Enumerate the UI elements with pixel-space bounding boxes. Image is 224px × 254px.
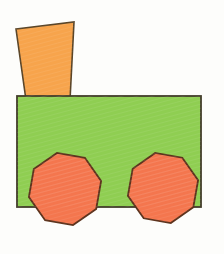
- train-wagon-illustration: [0, 0, 224, 254]
- chimney-trapezoid: [16, 22, 74, 100]
- illustration-canvas: [0, 0, 224, 254]
